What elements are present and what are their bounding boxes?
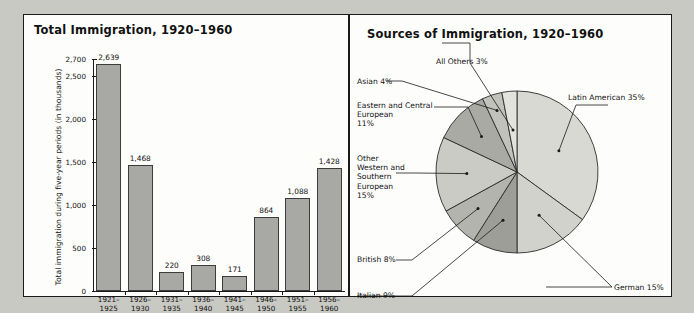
pie-leader-line	[412, 219, 505, 296]
x-axis-tick-mark	[314, 291, 315, 295]
x-axis-tick-mark	[282, 291, 283, 295]
bar-value-label: 308	[196, 254, 210, 263]
y-axis-tick-mark	[92, 59, 97, 60]
bar-chart-plot-area: 05001,0001,5002,0002,5002,700 2,6391,468…	[93, 59, 345, 296]
y-axis-tick-label: 500	[72, 244, 86, 253]
x-axis-tick-label: 1941–1945	[224, 296, 246, 313]
bar-value-label: 1,428	[319, 157, 340, 166]
y-axis-line	[93, 59, 94, 292]
bar-value-label: 1,468	[130, 154, 151, 163]
x-axis-tick-label: 1931–1935	[161, 296, 183, 313]
bar	[254, 217, 279, 291]
pie-chart-panel: Sources of Immigration, 1920–1960 Latin …	[349, 14, 672, 297]
x-axis-tick-label: 1946–1950	[255, 296, 277, 313]
x-axis-tick-mark	[156, 291, 157, 295]
bar-value-label: 1,088	[287, 187, 308, 196]
pie-label-latin-american: Latin American 35%	[568, 93, 645, 102]
bar-chart-title: Total Immigration, 1920–1960	[34, 23, 233, 37]
pie-label-british: British 8%	[357, 255, 396, 264]
bar	[191, 265, 216, 291]
y-axis-tick-label: 2,500	[65, 72, 86, 81]
x-axis-tick-label: 1951–1955	[287, 296, 309, 313]
x-axis-tick-mark	[219, 291, 220, 295]
bar-value-label: 2,639	[98, 53, 119, 62]
bar	[128, 165, 153, 291]
x-axis-tick-mark	[251, 291, 252, 295]
bar-chart-panel: Total Immigration, 1920–1960 Total immig…	[23, 14, 349, 297]
pie-label-german: German 15%	[614, 283, 664, 292]
pie-label-all-others: All Others 3%	[436, 57, 488, 66]
pie-chart-plot-area: Latin American 35% German 15% Italian 9%…	[350, 15, 673, 298]
pie-label-asian: Asian 4%	[357, 77, 392, 86]
bar-value-label: 171	[228, 265, 242, 274]
y-axis-tick-label: 2,000	[65, 115, 86, 124]
y-axis-tick-label: 2,700	[65, 55, 86, 64]
bar-value-label: 864	[259, 206, 273, 215]
bar	[285, 198, 310, 291]
y-axis-tick-label: 1,500	[65, 158, 86, 167]
y-axis-tick-label: 1,000	[65, 201, 86, 210]
bar-chart-y-axis-title: Total immigration during five-year perio…	[54, 61, 66, 293]
y-axis-tick-label: 0	[81, 287, 86, 296]
bar	[159, 272, 184, 291]
x-axis-tick-mark	[125, 291, 126, 295]
pie-label-eastern-central-european: Eastern and Central European 11%	[357, 101, 433, 129]
bar	[317, 168, 342, 291]
x-axis-tick-label: 1956–1960	[318, 296, 340, 313]
pie-label-italian: Italian 9%	[357, 291, 395, 300]
y-axis-tick-mark	[92, 291, 97, 292]
x-axis-tick-mark	[188, 291, 189, 295]
x-axis-tick-label: 1936–1940	[192, 296, 214, 313]
pie-label-other-western-southern-european: Other Western and Southern European 15%	[357, 154, 405, 200]
bar	[96, 64, 121, 291]
bar	[222, 276, 247, 291]
bar-value-label: 220	[165, 261, 179, 270]
x-axis-tick-label: 1926–1930	[129, 296, 151, 313]
x-axis-tick-label: 1921–1925	[98, 296, 120, 313]
